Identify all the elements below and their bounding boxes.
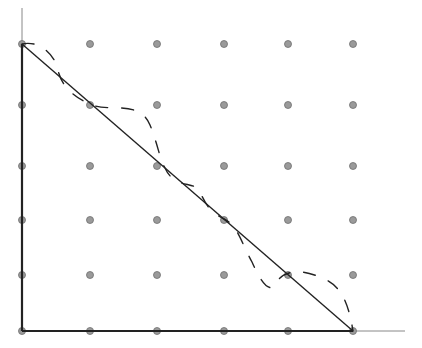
lattice-dot — [87, 163, 94, 170]
lattice-dot — [154, 102, 161, 109]
lattice-dot — [221, 272, 228, 279]
lattice-dot — [285, 102, 292, 109]
lattice-dot — [154, 41, 161, 48]
lattice-dot — [221, 41, 228, 48]
lattice-dot — [350, 272, 357, 279]
axis-extensions — [22, 8, 405, 331]
lattice-dot — [87, 41, 94, 48]
lattice-dot — [285, 41, 292, 48]
lattice-dot — [154, 217, 161, 224]
lattice-dot — [350, 102, 357, 109]
lattice-dot — [87, 272, 94, 279]
lattice-dot — [221, 163, 228, 170]
lattice-dot — [87, 217, 94, 224]
lattice-dot — [350, 41, 357, 48]
diagonal-line — [22, 44, 353, 331]
lattice-dot — [350, 217, 357, 224]
lattice-dot — [350, 163, 357, 170]
lattice-dot — [285, 217, 292, 224]
hypotenuse — [22, 44, 353, 331]
diagram-canvas — [0, 0, 422, 348]
lattice-dot — [285, 163, 292, 170]
lattice-dot — [221, 102, 228, 109]
lattice-dot — [154, 272, 161, 279]
